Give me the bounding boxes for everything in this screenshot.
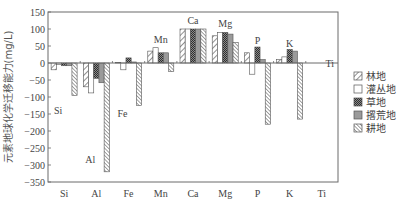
bar-annotation: K: [286, 38, 294, 49]
legend-swatch: [354, 85, 362, 93]
bar: [148, 51, 153, 63]
legend-item: 林地: [354, 70, 386, 82]
bar-annotation: Ca: [187, 15, 199, 26]
bar: [282, 57, 287, 63]
legend-label: 撂荒地: [366, 109, 396, 121]
bar-annotation: Ti: [326, 58, 335, 69]
legend-label: 耕地: [366, 122, 386, 134]
x-tick-label: Mg: [218, 188, 232, 199]
bar: [255, 47, 260, 63]
bar: [244, 53, 249, 63]
bar: [201, 29, 206, 63]
legend-label: 草地: [366, 96, 386, 108]
bar: [83, 63, 88, 87]
legend-item: 草地: [354, 96, 386, 108]
bar: [277, 60, 282, 63]
bar: [287, 49, 292, 63]
bar: [190, 29, 195, 63]
legend-label: 灌丛地: [366, 83, 396, 95]
x-axis-labels: SiAlFeMnCaMgPKTi: [60, 188, 326, 199]
bar: [99, 63, 104, 83]
legend: 林地灌丛地草地撂荒地耕地: [354, 70, 396, 134]
y-tick-label: 150: [30, 7, 45, 18]
legend-item: 撂荒地: [354, 109, 396, 121]
y-tick-label: −100: [24, 92, 45, 103]
bar: [89, 63, 94, 93]
bar: [126, 58, 131, 63]
y-tick-label: −300: [24, 160, 45, 171]
bar: [169, 63, 174, 72]
bar: [136, 63, 141, 106]
bar-annotation: P: [255, 35, 261, 46]
figure-caption-faded: [0, 199, 399, 210]
legend-item: 灌丛地: [354, 83, 396, 95]
bar: [265, 63, 270, 124]
y-tick-label: 100: [30, 24, 45, 35]
bar-chart: 150100500−50−100−150−200−250−300−350 SiA…: [0, 0, 399, 210]
bar: [297, 63, 302, 119]
bar-annotation: Fe: [118, 108, 129, 119]
bar: [217, 32, 222, 63]
x-tick-label: Fe: [124, 188, 135, 199]
bar: [94, 63, 99, 78]
x-tick-label: P: [255, 188, 261, 199]
bar-annotation: Al: [85, 154, 95, 165]
y-tick-label: 0: [40, 58, 45, 69]
y-tick-label: −350: [24, 177, 45, 188]
bar-group-k: [277, 49, 303, 119]
bar: [180, 29, 185, 63]
bar: [260, 60, 265, 63]
y-axis-label: 元素地球化学迁移能力(mg/L): [2, 30, 14, 163]
bar-annotation: Mg: [218, 18, 232, 29]
x-tick-label: Si: [60, 188, 69, 199]
bar-group-ca: [180, 29, 206, 63]
y-axis: 150100500−50−100−150−200−250−300−350: [24, 7, 51, 188]
bar: [121, 63, 126, 70]
bar: [185, 29, 190, 63]
bar: [153, 48, 158, 63]
bar: [292, 51, 297, 63]
x-tick-label: K: [286, 188, 294, 199]
bar: [223, 32, 228, 63]
y-tick-label: −200: [24, 126, 45, 137]
bar: [72, 63, 77, 95]
bar-group-mg: [212, 32, 238, 63]
bar-annotation: Mn: [154, 34, 168, 45]
y-tick-label: 50: [35, 41, 45, 52]
x-tick-label: Ti: [318, 188, 327, 199]
bar-annotation: Si: [54, 105, 63, 116]
bar: [158, 53, 163, 63]
legend-swatch: [354, 72, 362, 80]
bar: [163, 53, 168, 63]
bar: [104, 63, 109, 172]
legend-swatch: [354, 124, 362, 132]
x-tick-label: Al: [91, 188, 101, 199]
x-tick-label: Mn: [154, 188, 168, 199]
y-tick-label: −250: [24, 143, 45, 154]
y-tick-label: −50: [29, 75, 45, 86]
bar: [228, 34, 233, 63]
bar-group-fe: [116, 58, 142, 106]
bar: [196, 29, 201, 63]
legend-swatch: [354, 98, 362, 106]
bar-group-mn: [148, 48, 174, 72]
bar: [212, 36, 217, 63]
bar: [233, 43, 238, 63]
y-tick-label: −150: [24, 109, 45, 120]
x-tick-label: Ca: [187, 188, 199, 199]
legend-label: 林地: [366, 70, 386, 82]
bar-group-p: [244, 47, 270, 124]
legend-item: 耕地: [354, 122, 386, 134]
bar: [250, 63, 255, 74]
bar-group-si: [51, 63, 77, 95]
legend-swatch: [354, 111, 362, 119]
bar: [51, 63, 56, 70]
